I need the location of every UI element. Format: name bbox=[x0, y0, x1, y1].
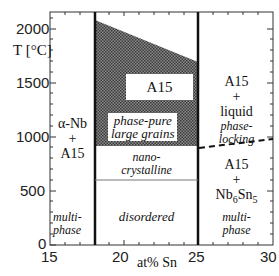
phase-pure-label: phase-pure large grains bbox=[108, 113, 177, 141]
x-tick-20: 20 bbox=[112, 248, 129, 265]
y-tick-500: 500 bbox=[20, 182, 45, 199]
x-tick-25: 25 bbox=[188, 248, 205, 265]
left-multiphase-label: multi- phase bbox=[53, 211, 82, 237]
y-tick-2000: 2000 bbox=[16, 20, 49, 37]
a15-nb6sn5-label: A15 + Nb6Sn5 bbox=[200, 157, 273, 207]
y-axis-label: T [°C] bbox=[13, 42, 52, 59]
nanocrystalline-label: nano- crystalline bbox=[95, 151, 198, 177]
right-multiphase-label: multi- phase bbox=[200, 211, 273, 237]
disordered-label: disordered bbox=[95, 210, 198, 223]
x-tick-15: 15 bbox=[41, 248, 58, 265]
x-axis-label: at% Sn bbox=[137, 255, 177, 271]
a15-box-label: A15 bbox=[126, 74, 193, 100]
y-tick-1000: 1000 bbox=[16, 128, 49, 145]
y-tick-1500: 1500 bbox=[16, 74, 49, 91]
phase-locking-label: phase- locking bbox=[200, 120, 273, 146]
x-tick-30: 30 bbox=[260, 248, 277, 265]
nb6sn5-formula: Nb6Sn5 bbox=[200, 187, 273, 207]
a15-liquid-label: A15 + liquid bbox=[200, 74, 273, 119]
alpha-nb-a15-label: α-Nb + A15 bbox=[50, 116, 95, 161]
